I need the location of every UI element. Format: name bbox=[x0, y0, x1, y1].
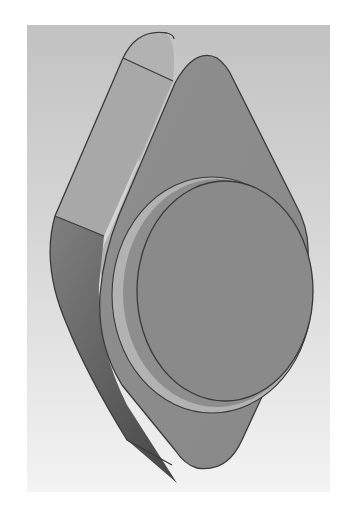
render-backdrop bbox=[27, 25, 330, 492]
cad-part-render bbox=[27, 25, 330, 492]
boss-face bbox=[137, 181, 313, 401]
